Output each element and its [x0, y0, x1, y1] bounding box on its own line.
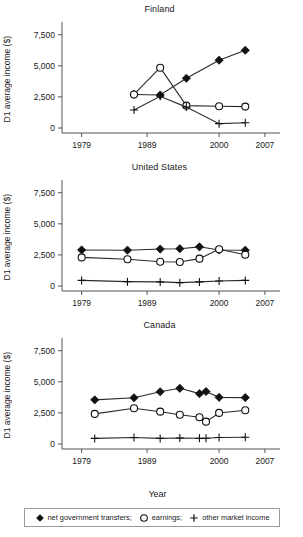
series-line-net-government-transfers — [134, 50, 245, 95]
data-point-marker — [176, 245, 184, 253]
y-tick-label: 0 — [50, 123, 55, 133]
series-line-other-market-income — [134, 96, 245, 123]
data-point-marker — [216, 409, 223, 416]
data-point-marker — [241, 276, 249, 284]
y-tick-label: 7,500 — [34, 346, 56, 356]
y-tick-label: 0 — [50, 439, 55, 449]
data-point-marker — [157, 408, 164, 415]
x-tick-label: 1979 — [72, 298, 91, 308]
x-tick-label: 2000 — [210, 456, 229, 466]
data-point-marker — [241, 394, 249, 402]
data-point-marker — [241, 119, 249, 127]
legend-item-net-government-transfers: net government transfers; — [35, 513, 132, 523]
data-point-marker — [242, 251, 249, 258]
data-point-marker — [156, 434, 164, 442]
y-axis-label-united-states: D1 average income ($) — [0, 158, 15, 316]
y-tick-label: 5,000 — [34, 377, 56, 387]
chart-panel-finland: Finland D1 average income ($) 02,5005,00… — [0, 0, 303, 158]
data-point-marker — [182, 74, 190, 82]
data-point-marker — [195, 278, 203, 286]
legend-label-0: net government transfers; — [48, 513, 132, 522]
chart-svg-canada: 02,5005,0007,5001979198920002007 — [0, 316, 303, 474]
y-tick-label: 7,500 — [34, 188, 56, 198]
data-point-marker — [156, 245, 164, 253]
data-point-marker — [130, 394, 138, 402]
legend-label-1: earnings; — [152, 513, 182, 522]
data-point-marker — [78, 246, 86, 254]
data-point-marker — [215, 277, 223, 285]
y-axis-label-canada: D1 average income ($) — [0, 316, 15, 474]
data-point-marker — [176, 411, 183, 418]
data-point-marker — [216, 103, 223, 110]
data-point-marker — [241, 46, 249, 54]
x-tick-label: 2000 — [210, 140, 229, 150]
y-tick-label: 7,500 — [34, 30, 56, 40]
data-point-marker — [176, 434, 184, 442]
chart-legend: net government transfers; earnings; othe… — [24, 508, 280, 527]
x-tick-label: 2007 — [255, 140, 274, 150]
data-point-marker — [156, 388, 164, 396]
data-point-marker — [123, 278, 131, 286]
chart-svg-united-states: 02,5005,0007,5001979198920002007 — [0, 158, 303, 316]
x-tick-label: 2007 — [255, 456, 274, 466]
data-point-marker — [131, 405, 138, 412]
data-point-marker — [130, 106, 138, 114]
data-point-marker — [196, 255, 203, 262]
panel-title-united-states: United States — [8, 162, 303, 172]
data-point-marker — [123, 246, 131, 254]
y-tick-label: 2,500 — [34, 408, 56, 418]
data-point-marker — [215, 434, 223, 442]
data-point-marker — [215, 56, 223, 64]
figure-container: Finland D1 average income ($) 02,5005,00… — [0, 0, 303, 537]
y-tick-label: 0 — [50, 281, 55, 291]
data-point-marker — [176, 259, 183, 266]
data-point-marker — [78, 276, 86, 284]
y-tick-label: 5,000 — [34, 219, 56, 229]
data-point-marker — [91, 434, 99, 442]
data-point-marker — [78, 254, 85, 261]
x-tick-label: 1979 — [72, 140, 91, 150]
data-point-marker — [196, 414, 203, 421]
data-point-marker — [131, 91, 138, 98]
data-point-marker — [91, 410, 98, 417]
chart-svg-finland: 02,5005,0007,5001979198920002007 — [0, 0, 303, 158]
diamond-marker-icon — [35, 513, 45, 523]
data-point-marker — [124, 256, 131, 263]
panel-title-finland: Finland — [8, 4, 303, 14]
plus-marker-icon — [189, 513, 199, 523]
x-tick-label: 1989 — [138, 140, 157, 150]
data-point-marker — [215, 393, 223, 401]
legend-item-other-market-income: other market income — [189, 513, 269, 523]
data-point-marker — [242, 103, 249, 110]
x-axis-label: Year — [6, 489, 303, 499]
data-point-marker — [130, 434, 138, 442]
data-point-marker — [202, 434, 210, 442]
data-point-marker — [156, 278, 164, 286]
data-point-marker — [215, 120, 223, 128]
data-point-marker — [91, 396, 99, 404]
data-point-marker — [241, 433, 249, 441]
data-point-marker — [216, 246, 223, 253]
circle-marker-icon — [139, 513, 149, 523]
y-tick-label: 5,000 — [34, 61, 56, 71]
x-tick-label: 2000 — [210, 298, 229, 308]
data-point-marker — [242, 407, 249, 414]
data-point-marker — [176, 384, 184, 392]
y-axis-label-finland: D1 average income ($) — [0, 0, 15, 158]
legend-label-2: other market income — [202, 513, 269, 522]
data-point-marker — [176, 279, 184, 287]
chart-panel-canada: Canada D1 average income ($) 02,5005,000… — [0, 316, 303, 474]
x-tick-label: 1979 — [72, 456, 91, 466]
series-line-earnings — [95, 408, 246, 421]
y-tick-label: 2,500 — [34, 92, 56, 102]
data-point-marker — [157, 258, 164, 265]
x-tick-label: 1989 — [138, 298, 157, 308]
data-point-marker — [195, 243, 203, 251]
x-tick-label: 1989 — [138, 456, 157, 466]
x-tick-label: 2007 — [255, 298, 274, 308]
panel-title-canada: Canada — [8, 320, 303, 330]
legend-item-earnings: earnings; — [139, 513, 182, 523]
chart-panel-united-states: United States D1 average income ($) 02,5… — [0, 158, 303, 316]
data-point-marker — [203, 418, 210, 425]
y-tick-label: 2,500 — [34, 250, 56, 260]
